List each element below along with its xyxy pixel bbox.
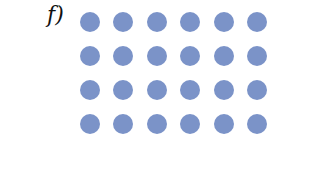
dot	[80, 80, 100, 100]
dot	[113, 114, 133, 134]
dot	[214, 80, 234, 100]
dot	[147, 46, 167, 66]
dot	[180, 80, 200, 100]
dot	[247, 80, 267, 100]
dot	[214, 46, 234, 66]
dot	[247, 46, 267, 66]
dot	[147, 12, 167, 32]
dot	[80, 12, 100, 32]
dot	[113, 12, 133, 32]
figure-label: f)	[47, 4, 64, 26]
dot	[180, 114, 200, 134]
dot	[214, 12, 234, 32]
dot	[180, 12, 200, 32]
dot-array	[80, 12, 267, 134]
dot	[147, 114, 167, 134]
dot	[180, 46, 200, 66]
dot	[80, 114, 100, 134]
dot	[147, 80, 167, 100]
dot	[113, 80, 133, 100]
dot	[113, 46, 133, 66]
dot	[80, 46, 100, 66]
dot	[247, 12, 267, 32]
dot	[214, 114, 234, 134]
dot	[247, 114, 267, 134]
